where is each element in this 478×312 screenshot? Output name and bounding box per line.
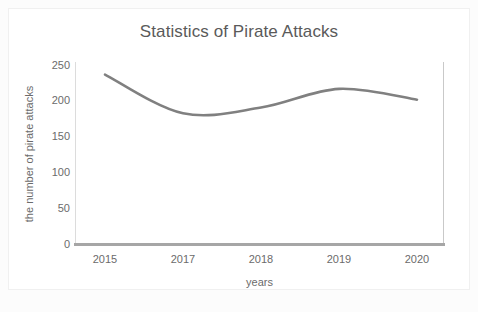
line-series-pirate-attacks bbox=[105, 75, 417, 116]
series-layer bbox=[0, 0, 478, 312]
chart-screenshot: Statistics of Pirate Attacks 250 200 150… bbox=[0, 0, 478, 312]
